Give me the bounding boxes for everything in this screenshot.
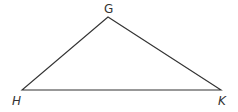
triangle-ghk [22, 17, 221, 90]
vertex-label-h: H [12, 94, 21, 108]
vertex-label-g: G [104, 2, 113, 16]
triangle-diagram: G H K [0, 0, 238, 112]
vertex-label-k: K [218, 94, 227, 108]
